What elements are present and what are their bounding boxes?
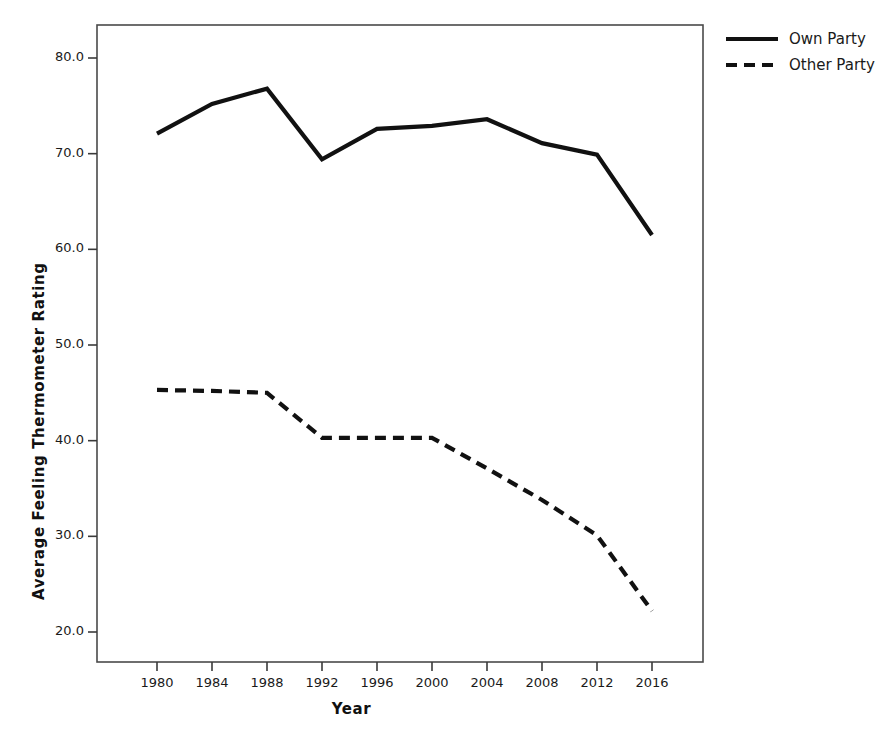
line-chart: Average Feeling Thermometer Rating Year … bbox=[0, 0, 895, 744]
x-tick-label: 1996 bbox=[347, 675, 407, 690]
x-tick-label: 1984 bbox=[182, 675, 242, 690]
plot-frame bbox=[97, 25, 703, 662]
y-tick-label: 30.0 bbox=[24, 527, 84, 542]
legend-dashed-line-icon bbox=[726, 58, 778, 72]
x-tick-label: 2000 bbox=[402, 675, 462, 690]
y-tick-label: 60.0 bbox=[24, 240, 84, 255]
y-tick-label: 20.0 bbox=[24, 623, 84, 638]
legend-item-own-party[interactable]: Own Party bbox=[726, 26, 875, 52]
x-tick-label: 1980 bbox=[127, 675, 187, 690]
y-axis-ticks bbox=[88, 58, 97, 632]
y-tick-label: 80.0 bbox=[24, 49, 84, 64]
plot-area bbox=[0, 0, 895, 744]
legend-item-other-party[interactable]: Other Party bbox=[726, 52, 875, 78]
x-tick-label: 2004 bbox=[457, 675, 517, 690]
x-tick-label: 1988 bbox=[237, 675, 297, 690]
x-tick-label: 2016 bbox=[622, 675, 682, 690]
y-tick-label: 40.0 bbox=[24, 432, 84, 447]
chart-legend: Own Party Other Party bbox=[726, 26, 875, 78]
y-tick-label: 70.0 bbox=[24, 145, 84, 160]
legend-label-other-party: Other Party bbox=[789, 56, 875, 74]
legend-label-own-party: Own Party bbox=[789, 30, 866, 48]
x-tick-label: 2008 bbox=[512, 675, 572, 690]
y-tick-label: 50.0 bbox=[24, 336, 84, 351]
x-tick-label: 2012 bbox=[567, 675, 627, 690]
x-tick-label: 1992 bbox=[292, 675, 352, 690]
x-axis-ticks bbox=[157, 662, 652, 671]
x-axis-title: Year bbox=[0, 700, 703, 718]
legend-solid-line-icon bbox=[726, 32, 778, 46]
